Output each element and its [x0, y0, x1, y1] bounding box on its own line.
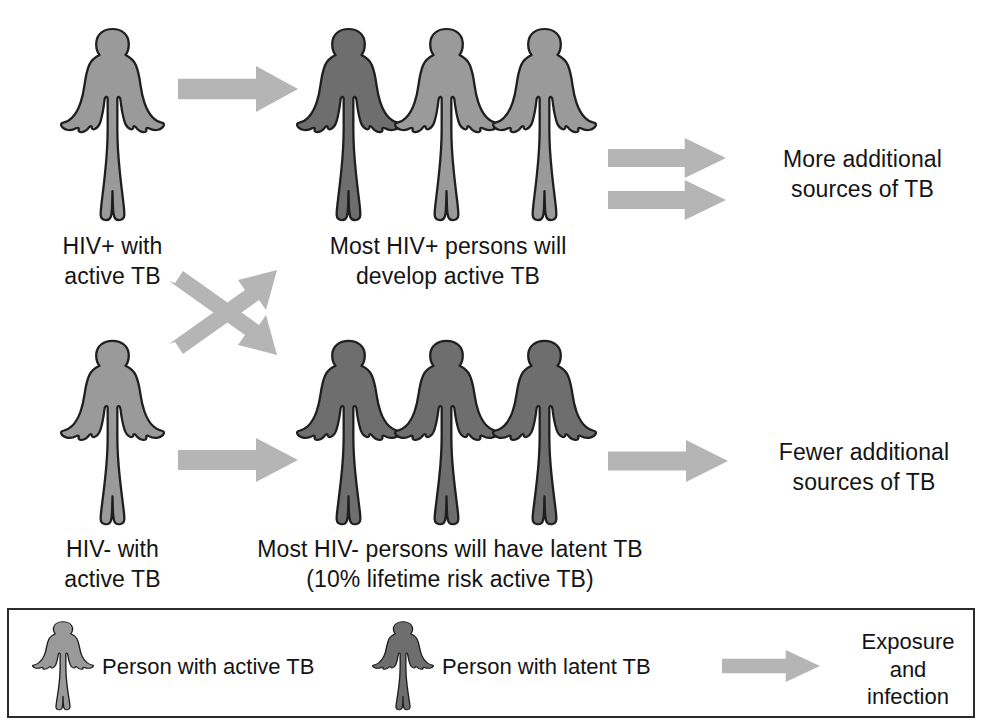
legend-label-exposure-and-infection: Exposure and infection [838, 628, 978, 711]
label-outcome-top: Most HIV+ persons will develop active TB [243, 232, 653, 292]
label-fewer-additional-sources: Fewer additional sources of TB [740, 438, 988, 498]
person-outcome-top-3 [492, 25, 597, 225]
person-outcome-top-1 [296, 25, 401, 225]
arrow-fewer-sources-icon [608, 440, 728, 482]
arrow-more-sources-2-icon [608, 180, 726, 220]
person-outcome-bottom-2 [394, 337, 499, 529]
label-outcome-bottom: Most HIV- persons will have latent TB (1… [200, 535, 700, 595]
legend-arrow-right-icon [722, 650, 820, 682]
person-hiv-negative-source [60, 337, 165, 529]
legend-person-active-tb-icon [32, 620, 94, 712]
legend-person-latent-tb-icon [372, 620, 434, 712]
legend-label-latent-tb: Person with latent TB [442, 653, 692, 681]
arrow-more-sources-1-icon [608, 138, 726, 178]
person-outcome-bottom-1 [296, 337, 401, 529]
arrow-bottom-progression-icon [178, 438, 298, 482]
person-outcome-bottom-3 [492, 337, 597, 529]
legend-label-active-tb: Person with active TB [102, 653, 352, 681]
arrow-top-progression-icon [178, 66, 298, 112]
person-outcome-top-2 [394, 25, 499, 225]
crossing-exposure-arrows-icon [165, 258, 295, 363]
label-hiv-negative-source: HIV- with active TB [10, 535, 215, 595]
tb-transmission-diagram: HIV+ with active TB Most HIV+ persons wi… [0, 0, 992, 725]
label-more-additional-sources: More additional sources of TB [740, 145, 985, 205]
person-hiv-positive-source [60, 25, 165, 225]
